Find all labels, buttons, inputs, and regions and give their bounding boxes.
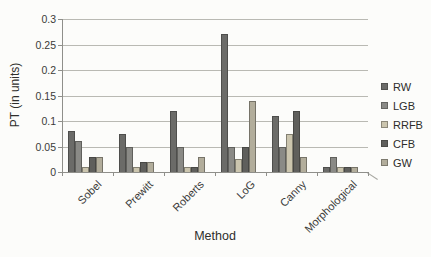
bar-RW-Sobel — [68, 131, 75, 172]
y-tick-label: 0.15 — [24, 90, 56, 102]
x-category-label: Morphological — [302, 178, 359, 235]
legend-item-CFB: CFB — [381, 134, 423, 153]
x-category-label: Roberts — [170, 178, 206, 214]
y-tick-label: 0.2 — [24, 64, 56, 76]
x-axis-tick — [164, 172, 165, 176]
y-axis-title: PT (in units) — [8, 49, 22, 141]
x-axis-tick — [62, 172, 63, 176]
chart-figure: PT (in units) Method 00.050.10.150.20.25… — [0, 0, 431, 257]
bar-LGB-Prewitt — [126, 147, 133, 173]
bar-CFB-Roberts — [191, 167, 198, 172]
x-axis-tick — [215, 172, 216, 176]
x-axis-tick — [368, 172, 369, 176]
legend-label: GW — [393, 157, 412, 169]
legend-item-LGB: LGB — [381, 96, 423, 115]
y-tick-label: 0 — [24, 166, 56, 178]
x-category-label: Sobel — [76, 178, 104, 206]
legend-item-GW: GW — [381, 153, 423, 172]
bar-RRFB-Prewitt — [133, 167, 140, 172]
legend-label: RW — [393, 81, 411, 93]
bar-LGB-Morphological — [330, 157, 337, 172]
bar-CFB-Prewitt — [140, 162, 147, 172]
x-category-label: LoG — [234, 178, 257, 201]
x-axis-tick — [113, 172, 114, 176]
bar-GW-Sobel — [96, 157, 103, 172]
bar-RW-LoG — [221, 34, 228, 172]
legend-label: LGB — [393, 100, 415, 112]
legend-swatch-icon — [381, 102, 388, 109]
legend: RWLGBRRFBCFBGW — [381, 77, 423, 172]
bar-GW-Prewitt — [147, 162, 154, 172]
y-tick-label: 0.3 — [24, 13, 56, 25]
bar-GW-Roberts — [198, 157, 205, 172]
bar-LGB-LoG — [228, 147, 235, 173]
bar-RRFB-Canny — [286, 134, 293, 172]
gridline — [62, 70, 368, 71]
bar-CFB-Morphological — [344, 167, 351, 172]
bar-LGB-Canny — [279, 147, 286, 173]
legend-item-RRFB: RRFB — [381, 115, 423, 134]
legend-swatch-icon — [381, 159, 388, 166]
bar-LGB-Roberts — [177, 147, 184, 173]
bar-CFB-Canny — [293, 111, 300, 172]
bar-GW-Morphological — [351, 167, 358, 172]
y-axis-line — [62, 19, 63, 173]
legend-item-RW: RW — [381, 77, 423, 96]
gridline — [62, 96, 368, 97]
legend-swatch-icon — [381, 121, 388, 128]
bar-GW-Canny — [300, 157, 307, 172]
gridline — [62, 121, 368, 122]
x-axis-tick — [317, 172, 318, 176]
x-axis-tick — [266, 172, 267, 176]
legend-label: CFB — [393, 138, 415, 150]
y-tick-label: 0.25 — [24, 39, 56, 51]
bar-LGB-Sobel — [75, 141, 82, 172]
legend-swatch-icon — [381, 83, 388, 90]
bar-RRFB-LoG — [235, 159, 242, 172]
x-category-label: Prewitt — [123, 178, 155, 210]
bar-RW-Prewitt — [119, 134, 126, 172]
bar-CFB-Sobel — [89, 157, 96, 172]
bar-CFB-LoG — [242, 147, 249, 173]
legend-label: RRFB — [393, 119, 423, 131]
bar-RRFB-Sobel — [82, 167, 89, 172]
y-tick-label: 0.05 — [24, 141, 56, 153]
x-axis-title: Method — [163, 229, 267, 243]
legend-swatch-icon — [381, 140, 388, 147]
bar-RRFB-Roberts — [184, 167, 191, 172]
bar-RW-Morphological — [323, 167, 330, 172]
bar-RRFB-Morphological — [337, 167, 344, 172]
gridline — [62, 45, 368, 46]
bar-GW-LoG — [249, 101, 256, 172]
y-tick-label: 0.1 — [24, 115, 56, 127]
gridline — [62, 19, 368, 20]
plot-area: PT (in units) Method 00.050.10.150.20.25… — [0, 0, 431, 257]
bar-RW-Roberts — [170, 111, 177, 172]
bar-RW-Canny — [272, 116, 279, 172]
gridline — [62, 147, 368, 148]
x-category-label: Canny — [277, 178, 308, 209]
